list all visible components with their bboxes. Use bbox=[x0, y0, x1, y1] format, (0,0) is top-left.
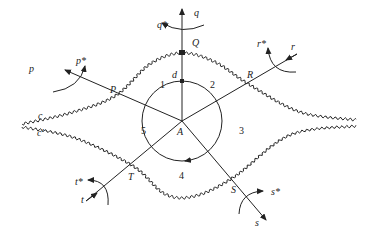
axis-r bbox=[182, 54, 297, 121]
point-label-P: P bbox=[110, 85, 116, 95]
axis-label-t: t bbox=[81, 195, 84, 205]
center-label-A: A bbox=[177, 127, 183, 137]
diagram-canvas: A d 1 2 3 4 5 p p* P q q* Q r r* R s s* … bbox=[0, 0, 374, 236]
point-label-Q: Q bbox=[192, 38, 199, 48]
axis-label-q-star: q* bbox=[157, 20, 167, 30]
axis-label-s-star: s* bbox=[271, 187, 280, 197]
curve-c-prime bbox=[22, 125, 356, 199]
rotation-arc-p bbox=[53, 66, 85, 92]
curve-label-c-prime: c′ bbox=[37, 128, 44, 138]
region-5: 5 bbox=[141, 126, 146, 136]
axis-label-p-star: p* bbox=[76, 56, 86, 66]
axis-label-p: p bbox=[29, 64, 34, 74]
axis-label-t-star: t* bbox=[75, 177, 83, 187]
axis-p bbox=[65, 70, 182, 121]
point-label-T: T bbox=[128, 172, 134, 182]
diagram-graphics bbox=[0, 0, 374, 236]
curve-c bbox=[22, 52, 356, 125]
axis-label-r-star: r* bbox=[257, 39, 266, 49]
region-4: 4 bbox=[179, 171, 184, 181]
axis-label-r: r bbox=[291, 42, 295, 52]
point-label-R: R bbox=[247, 70, 253, 80]
region-1: 1 bbox=[160, 80, 165, 90]
axis-s bbox=[182, 121, 266, 220]
region-2: 2 bbox=[210, 80, 215, 90]
point-label-S: S bbox=[231, 185, 236, 195]
axis-t bbox=[86, 121, 182, 201]
axis-label-s: s bbox=[255, 218, 259, 228]
axis-label-q: q bbox=[194, 8, 199, 18]
rotation-arc-q bbox=[162, 23, 204, 30]
marker-label-d: d bbox=[172, 70, 177, 80]
region-3: 3 bbox=[239, 126, 244, 136]
rotation-arc-t bbox=[88, 180, 108, 205]
curve-label-c: c bbox=[38, 111, 42, 121]
